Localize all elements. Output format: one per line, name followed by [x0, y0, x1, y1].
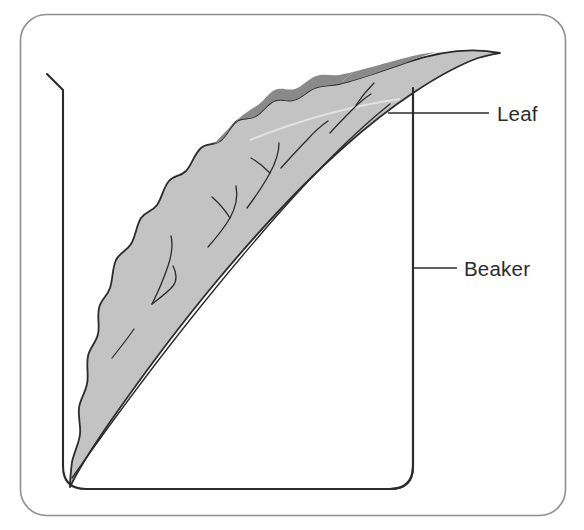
- label-beaker-group[interactable]: Beaker: [413, 257, 530, 280]
- figure-container: Leaf Beaker: [0, 0, 584, 530]
- beaker-label: Beaker: [464, 257, 530, 280]
- label-leaf-group[interactable]: Leaf: [388, 102, 538, 125]
- beaker-right-wall: [390, 88, 413, 489]
- leaf-label: Leaf: [497, 102, 538, 125]
- diagram-canvas: Leaf Beaker: [0, 0, 584, 530]
- beaker-right-wall-front: [390, 88, 413, 489]
